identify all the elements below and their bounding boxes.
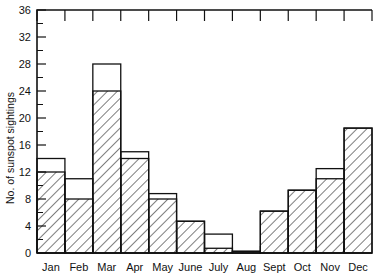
y-tick-label: 0 (25, 247, 31, 259)
bar-hatched (65, 199, 93, 253)
x-tick-label: Apr (126, 261, 143, 273)
x-tick-label: Nov (320, 261, 340, 273)
bar-hatched (260, 211, 288, 253)
x-tick-label: Aug (237, 261, 257, 273)
x-tick-label: Jan (42, 261, 60, 273)
y-tick-label: 8 (25, 193, 31, 205)
y-tick-label: 4 (25, 220, 31, 232)
x-axis-tick-labels: JanFebMarAprMayJuneJulyAugSeptOctNovDec (42, 261, 368, 273)
y-tick-label: 20 (19, 112, 31, 124)
x-tick-label: June (179, 261, 203, 273)
x-tick-label: May (152, 261, 173, 273)
y-tick-label: 12 (19, 166, 31, 178)
bar-hatched (37, 172, 65, 253)
x-tick-label: July (209, 261, 229, 273)
bar-hatched (344, 128, 372, 253)
bar-hatched (316, 179, 344, 253)
y-tick-label: 32 (19, 31, 31, 43)
y-tick-label: 36 (19, 4, 31, 16)
chart-figure: No. of sunspot sightings 048121620242832… (0, 0, 380, 280)
y-tick-label: 16 (19, 139, 31, 151)
bar-hatched (177, 221, 205, 253)
bar-hatched (121, 159, 149, 254)
y-axis-title-text: No. of sunspot sightings (4, 92, 16, 204)
x-tick-label: Dec (348, 261, 368, 273)
y-axis-tick-labels: 04812162024283236 (19, 4, 31, 259)
y-tick-label: 24 (19, 85, 31, 97)
x-tick-label: Sept (263, 261, 286, 273)
y-tick-label: 28 (19, 58, 31, 70)
bar-hatched (93, 91, 121, 253)
y-axis-title: No. of sunspot sightings (4, 92, 16, 204)
sunspot-histogram: No. of sunspot sightings 048121620242832… (0, 0, 380, 280)
x-tick-label: Mar (97, 261, 116, 273)
x-tick-label: Oct (294, 261, 311, 273)
bar-hatched (288, 190, 316, 253)
x-tick-label: Feb (69, 261, 88, 273)
bar-hatched (149, 199, 177, 253)
